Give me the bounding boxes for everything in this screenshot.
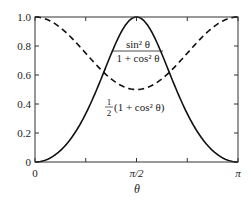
annotation-half: 1 2 (1 + cos² θ) <box>105 97 165 118</box>
y-tick-label: 0.4 <box>17 98 31 110</box>
x-tick-label: π <box>235 167 241 179</box>
annotation-half-numerator: 1 <box>107 97 112 107</box>
y-tick-label: 0.8 <box>17 40 31 52</box>
x-tick-label: π/2 <box>129 167 144 179</box>
annotation-ratio-numerator: sin² θ <box>126 38 150 50</box>
y-tick-label: 0 <box>26 156 32 168</box>
annotation-ratio: sin² θ 1 + cos² θ <box>113 38 163 64</box>
y-tick-label: 0.2 <box>17 127 31 139</box>
chart: 0π/2π00.20.40.60.81.0 sin² θ 1 + cos² θ … <box>0 0 251 210</box>
annotation-half-expression: (1 + cos² θ) <box>114 101 165 114</box>
y-tick-label: 1.0 <box>17 11 31 23</box>
x-tick-label: 0 <box>32 167 38 179</box>
annotation-half-denominator: 2 <box>107 108 112 118</box>
axis-ticks: 0π/2π00.20.40.60.81.0 <box>17 11 241 179</box>
x-axis-label: θ <box>134 182 140 196</box>
y-tick-label: 0.6 <box>17 69 31 81</box>
annotation-ratio-denominator: 1 + cos² θ <box>116 52 159 64</box>
